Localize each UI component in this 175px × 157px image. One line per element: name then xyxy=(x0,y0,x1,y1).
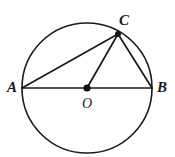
point-O-label: O xyxy=(82,96,92,111)
circle-geometry-diagram: A B C O xyxy=(0,0,175,157)
point-B-label: B xyxy=(156,79,167,95)
point-O-center-dot xyxy=(83,84,90,91)
point-C-label: C xyxy=(119,12,130,28)
segment-AC-chord xyxy=(22,34,118,88)
point-C-dot xyxy=(115,31,121,37)
geometry-canvas: A B C O xyxy=(0,0,175,157)
point-A-label: A xyxy=(6,79,17,95)
